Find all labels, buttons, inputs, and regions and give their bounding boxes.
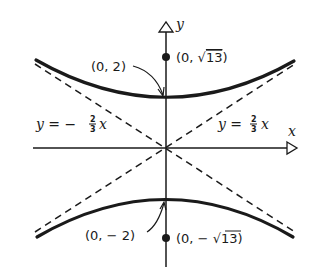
focus-upper-label: (0, √13) — [176, 50, 228, 65]
hyperbola-upper-branch — [36, 60, 294, 97]
vertex-lower-label: (0, − 2) — [85, 228, 135, 243]
arrowhead-icon — [158, 87, 164, 96]
svg-text:(0, √13): (0, √13) — [176, 50, 228, 65]
asymptote-negative-label: y = − 2 3 x — [35, 115, 107, 134]
x-axis-arrow-icon — [287, 142, 297, 154]
svg-text:2: 2 — [90, 115, 96, 124]
svg-text:x: x — [99, 116, 107, 132]
y-axis-label: y — [175, 16, 185, 32]
vertex-upper-label: (0, 2) — [91, 59, 126, 74]
focus-lower-dot — [162, 234, 170, 242]
hyperbola-diagram: y x (0, 2) (0, − 2) (0, √13) (0, − √13) … — [0, 0, 312, 267]
focus-lower-label: (0, − √13) — [176, 231, 243, 246]
svg-text:x: x — [261, 116, 269, 132]
svg-text:y = −: y = − — [35, 116, 76, 132]
svg-text:3: 3 — [251, 125, 257, 134]
focus-upper-dot — [162, 53, 170, 61]
svg-text:3: 3 — [90, 125, 96, 134]
svg-text:2: 2 — [251, 115, 257, 124]
x-axis-label: x — [288, 123, 296, 139]
svg-text:y =: y = — [217, 116, 242, 132]
y-axis-arrow-icon — [159, 22, 173, 32]
asymptote-positive-label: y = 2 3 x — [217, 115, 269, 134]
svg-text:(0, − √13): (0, − √13) — [176, 231, 243, 246]
